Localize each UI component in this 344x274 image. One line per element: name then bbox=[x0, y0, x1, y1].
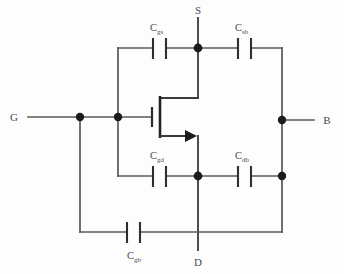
node-source bbox=[194, 44, 203, 53]
circuit-schematic-svg: C gs C sb C gd C db C gb G S D B bbox=[0, 0, 344, 274]
label-cgd-base: C bbox=[150, 150, 157, 161]
label-cdb-sub: db bbox=[242, 156, 250, 164]
label-cgb-base: C bbox=[127, 250, 134, 261]
label-cdb-base: C bbox=[235, 150, 242, 161]
label-cgd-sub: gd bbox=[157, 156, 165, 164]
node-gate-outer bbox=[76, 113, 84, 121]
label-terminal-drain: D bbox=[194, 256, 202, 268]
capacitor-cgs bbox=[153, 38, 166, 59]
label-cgs-sub: gs bbox=[157, 28, 164, 36]
node-bulk-upper bbox=[278, 116, 286, 124]
label-terminal-gate: G bbox=[10, 111, 18, 123]
label-terminal-source: S bbox=[195, 4, 201, 16]
capacitor-csb bbox=[238, 38, 251, 59]
mosfet-symbol bbox=[152, 96, 197, 142]
label-cgb-sub: gb bbox=[134, 256, 142, 264]
node-bulk-lower bbox=[278, 172, 286, 180]
capacitor-labels: C gs C sb C gd C db C gb bbox=[127, 22, 250, 264]
label-csb-sub: sb bbox=[242, 28, 249, 36]
label-cgs-base: C bbox=[150, 22, 157, 33]
label-terminal-bulk: B bbox=[323, 114, 330, 126]
capacitor-cgd bbox=[153, 166, 166, 187]
circuit-diagram-canvas: C gs C sb C gd C db C gb G S D B bbox=[0, 0, 344, 274]
mosfet-direction-arrow-icon bbox=[185, 130, 197, 142]
label-csb-base: C bbox=[235, 22, 242, 33]
junction-nodes bbox=[76, 44, 286, 181]
bulk-net bbox=[282, 120, 314, 232]
node-gate-inner bbox=[114, 113, 122, 121]
gate-net bbox=[28, 48, 152, 232]
capacitor-cgb bbox=[127, 222, 140, 243]
node-drain bbox=[194, 172, 203, 181]
capacitor-cdb bbox=[238, 166, 251, 187]
top-branch-net bbox=[118, 48, 282, 120]
